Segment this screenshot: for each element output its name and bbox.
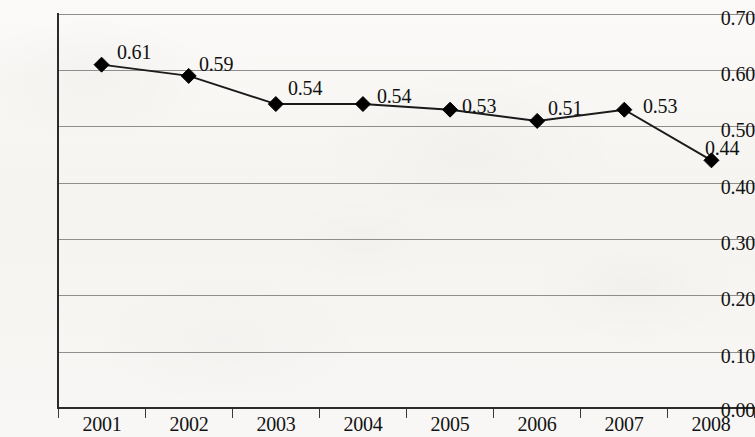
- series-markers: [94, 57, 719, 168]
- data-label-2004: 0.54: [377, 86, 411, 106]
- data-point-marker-2005: [443, 102, 458, 117]
- data-point-marker-2007: [617, 102, 632, 117]
- data-series-group: [0, 0, 755, 437]
- data-label-2006: 0.51: [548, 98, 582, 118]
- data-point-marker-2001: [94, 57, 109, 72]
- data-point-marker-2003: [268, 97, 283, 112]
- data-label-2008: 0.44: [705, 138, 739, 158]
- data-label-2002: 0.59: [199, 54, 233, 74]
- data-point-marker-2004: [355, 97, 370, 112]
- line-chart: 0.70 0.60 0.50 0.40 0.30 0.20 0.10 0.00 …: [0, 0, 755, 437]
- data-label-2001: 0.61: [117, 42, 151, 62]
- data-label-2003: 0.54: [288, 78, 322, 98]
- data-point-marker-2006: [530, 113, 545, 128]
- data-label-2007: 0.53: [643, 96, 677, 116]
- data-point-marker-2002: [181, 68, 196, 83]
- data-label-2005: 0.53: [462, 96, 496, 116]
